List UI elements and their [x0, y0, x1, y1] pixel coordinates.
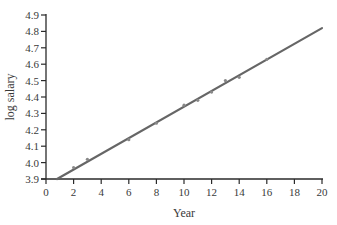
fitted-line [57, 28, 322, 179]
y-tick-label: 4.3 [25, 107, 39, 119]
y-tick-label: 4.9 [25, 9, 39, 21]
data-point [72, 166, 75, 169]
y-tick-label: 4.2 [25, 124, 39, 136]
x-axis: 02468101214161820 [41, 179, 328, 198]
data-point [127, 138, 130, 141]
y-tick-label: 4.4 [25, 91, 39, 103]
log-salary-chart: 3.94.04.14.24.34.44.54.64.74.84.9 024681… [0, 0, 337, 225]
data-point [224, 79, 227, 82]
data-point [155, 122, 158, 125]
y-tick-label: 4.8 [25, 25, 39, 37]
y-tick-label: 4.5 [25, 75, 39, 87]
data-point [238, 76, 241, 79]
y-tick-label: 4.7 [25, 42, 39, 54]
data-point [196, 99, 199, 102]
x-tick-label: 2 [71, 186, 77, 198]
x-axis-label: Year [173, 206, 195, 220]
y-tick-label: 3.9 [25, 173, 39, 185]
data-point [182, 104, 185, 107]
y-tick-label: 4.1 [25, 140, 39, 152]
x-tick-label: 12 [206, 186, 217, 198]
x-tick-label: 18 [289, 186, 301, 198]
chart-svg: 3.94.04.14.24.34.44.54.64.74.84.9 024681… [0, 0, 337, 225]
x-tick-label: 0 [43, 186, 49, 198]
data-point [86, 158, 89, 161]
x-tick-label: 8 [154, 186, 160, 198]
y-tick-label: 4.6 [25, 58, 39, 70]
x-tick-label: 6 [126, 186, 132, 198]
y-tick-label: 4.0 [25, 157, 39, 169]
x-tick-label: 4 [98, 186, 104, 198]
data-point [210, 90, 213, 93]
x-tick-label: 20 [317, 186, 329, 198]
y-axis-label: log salary [3, 74, 17, 121]
x-tick-label: 16 [261, 186, 273, 198]
y-axis: 3.94.04.14.24.34.44.54.64.74.84.9 [25, 9, 46, 185]
x-tick-label: 10 [179, 186, 191, 198]
x-tick-label: 14 [234, 186, 246, 198]
data-point [265, 58, 268, 61]
